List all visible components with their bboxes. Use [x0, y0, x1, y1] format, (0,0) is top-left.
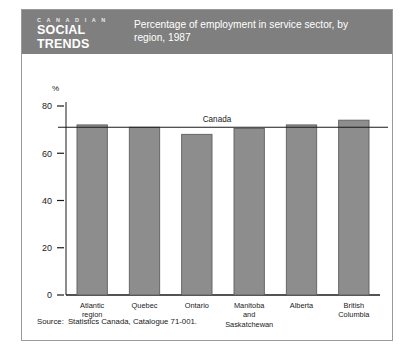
- x-axis-category-label: Manitoba: [234, 301, 265, 310]
- brand-line-social: SOCIAL: [37, 24, 126, 38]
- figure-header-band: C A N A D I A N SOCIAL TRENDS Percentage…: [22, 10, 392, 54]
- y-axis-tick-label: 40: [42, 196, 52, 206]
- x-axis-category-label: British: [344, 301, 365, 310]
- figure-title: Percentage of employment in service sect…: [126, 10, 392, 44]
- source-label: Source:: [37, 317, 64, 326]
- plot-area: %020406080CanadaAtlanticregionQuebecOnta…: [22, 54, 392, 342]
- bar-chart: %020406080CanadaAtlanticregionQuebecOnta…: [22, 54, 392, 342]
- bar: [182, 134, 212, 295]
- source-note: Source:Statistics Canada, Catalogue 71-0…: [37, 317, 197, 326]
- brand-line-trends: TRENDS: [37, 38, 126, 52]
- y-axis-tick-label: 0: [47, 290, 52, 300]
- x-axis-category-label: Ontario: [185, 301, 209, 310]
- canada-reference-label: Canada: [203, 115, 232, 124]
- x-axis-category-label: Quebec: [132, 301, 158, 310]
- bar: [339, 120, 369, 295]
- bar: [234, 128, 264, 295]
- source-value: Statistics Canada, Catalogue 71-001.: [68, 317, 197, 326]
- x-axis-category-label: and: [243, 310, 255, 319]
- x-axis-category-label: Alberta: [290, 301, 314, 310]
- bar: [286, 125, 316, 295]
- y-axis-unit-label: %: [52, 84, 59, 93]
- x-axis-category-label: Saskatchewan: [225, 320, 273, 329]
- x-axis-category-label: Columbia: [338, 310, 370, 319]
- publication-logo: C A N A D I A N SOCIAL TRENDS: [22, 10, 126, 51]
- figure-container: C A N A D I A N SOCIAL TRENDS Percentage…: [21, 9, 393, 341]
- y-axis-tick-label: 60: [42, 149, 52, 159]
- bar: [129, 127, 159, 295]
- y-axis-tick-label: 20: [42, 243, 52, 253]
- bar: [77, 125, 107, 295]
- x-axis-category-label: Atlantic: [80, 301, 105, 310]
- y-axis-tick-label: 80: [42, 101, 52, 111]
